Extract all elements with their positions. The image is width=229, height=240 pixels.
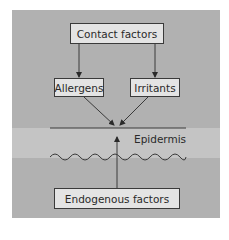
allergens-box: Allergens <box>54 78 104 97</box>
arrow-allergens-to-epidermis <box>84 97 114 125</box>
irritants-label: Irritants <box>134 82 175 94</box>
arrow-irritants-to-epidermis <box>120 97 148 125</box>
contact-factors-box: Contact factors <box>70 23 164 44</box>
contact-factors-label: Contact factors <box>77 28 157 40</box>
basement-membrane-wave <box>50 154 186 160</box>
endogenous-factors-label: Endogenous factors <box>65 193 169 205</box>
epidermis-label: Epidermis <box>134 133 186 145</box>
irritants-box: Irritants <box>130 78 180 97</box>
allergens-label: Allergens <box>55 82 104 94</box>
endogenous-factors-box: Endogenous factors <box>54 188 180 209</box>
